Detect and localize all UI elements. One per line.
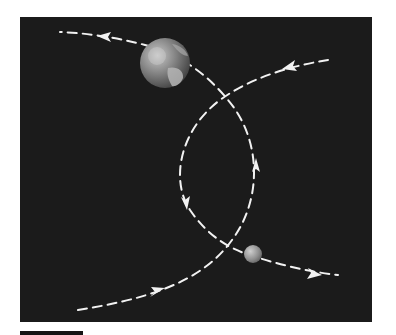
orbital-diagram (0, 0, 396, 335)
label-bar (20, 331, 83, 335)
small-body-icon (244, 245, 262, 263)
earth-icon (140, 38, 190, 88)
space-panel (20, 17, 372, 322)
